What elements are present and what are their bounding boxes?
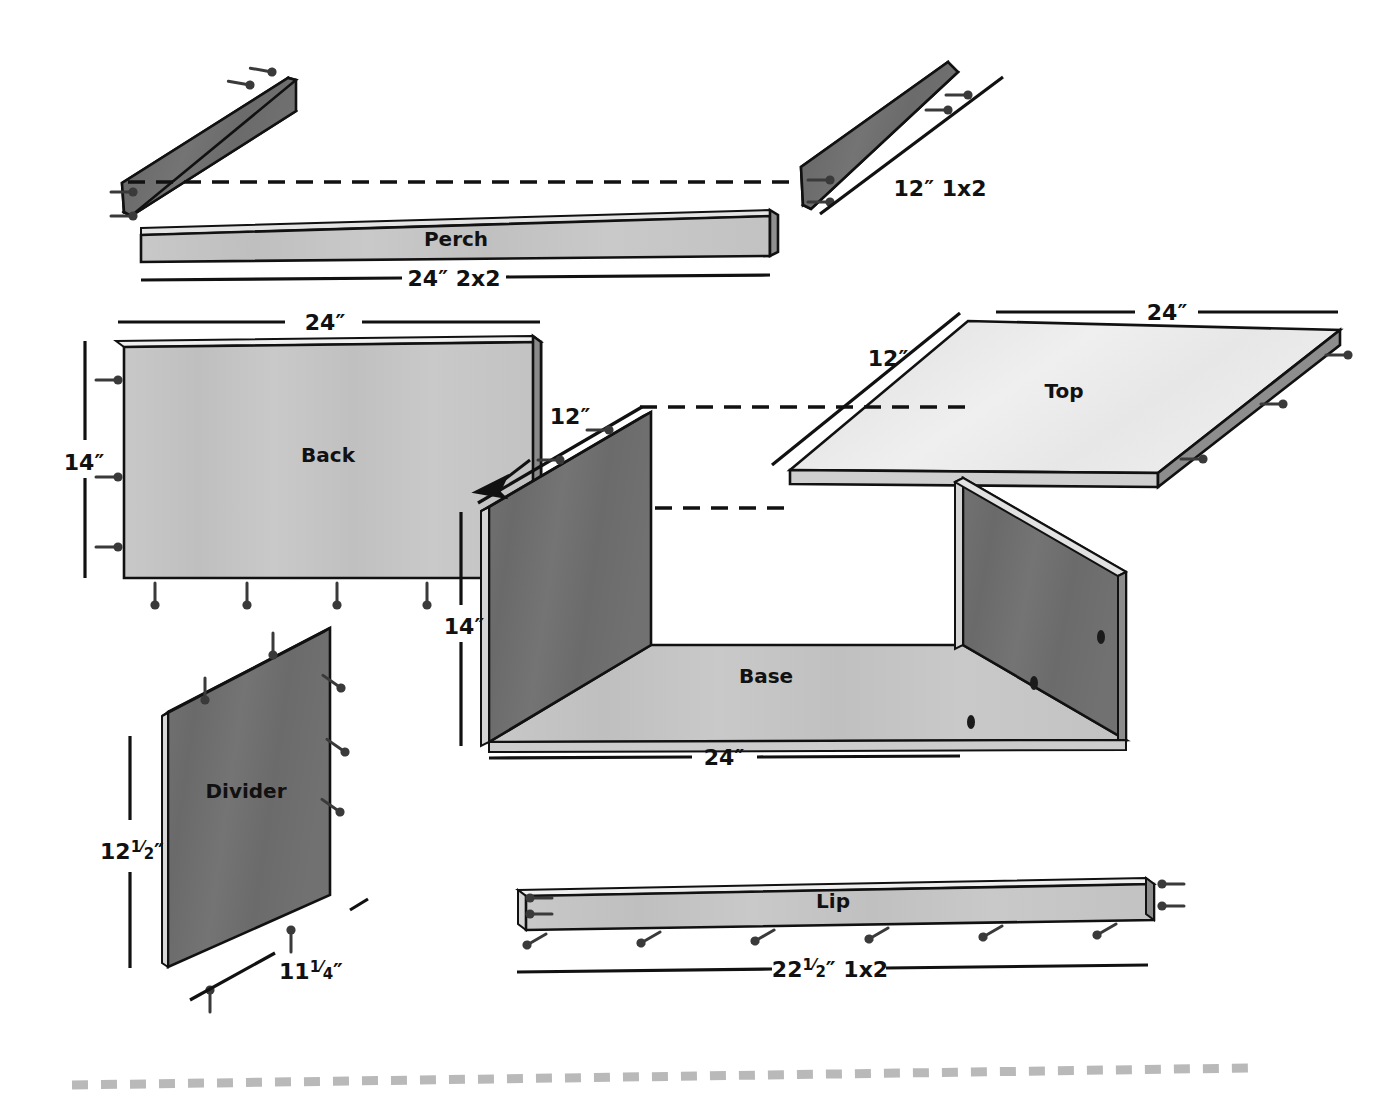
dimension-lip-length: 221⁄2″ 1x2 [517,956,1148,982]
part-label-back: Back [301,443,356,467]
dimension-label-divider-width: 111⁄4″ [279,958,343,984]
dimension-perch-length: 24″ 2x2 [141,266,770,291]
exploded-diagram-svg: Perch 24″ 2x2 12″ 1x2 Back 24″ 14″ [0,0,1382,1100]
dimension-label-base-height: 14″ [444,614,485,639]
dimension-label-perch: 24″ 2x2 [408,266,501,291]
part-perch-back-rail [122,78,296,216]
part-label-base: Base [739,664,793,688]
part-label-lip: Lip [816,889,850,913]
dimension-label-base-width: 24″ [704,745,745,770]
dimension-label-lip: 221⁄2″ 1x2 [772,956,888,982]
dimension-label-top-depth: 12″ [868,346,909,371]
part-label-divider: Divider [205,779,286,803]
dimension-back-height: 14″ [64,341,105,578]
dimension-label-base-depth: 12″ [550,404,591,429]
part-label-perch: Perch [424,227,488,251]
part-label-top: Top [1044,379,1083,403]
page-bottom-dashed-rule [72,1068,1250,1085]
dimension-label-side-rail: 12″ 1x2 [894,176,987,201]
dimension-back-width: 24″ [118,310,540,335]
dimension-label-back-height: 14″ [64,450,105,475]
dimension-label-top-width: 24″ [1147,300,1188,325]
dimension-divider-height: 121⁄2″ [100,736,164,968]
dimension-label-back-width: 24″ [305,310,346,335]
dimension-label-divider-height: 121⁄2″ [100,838,164,864]
diagram-canvas: Perch 24″ 2x2 12″ 1x2 Back 24″ 14″ [0,0,1382,1100]
dimension-top-width: 24″ [996,300,1338,325]
